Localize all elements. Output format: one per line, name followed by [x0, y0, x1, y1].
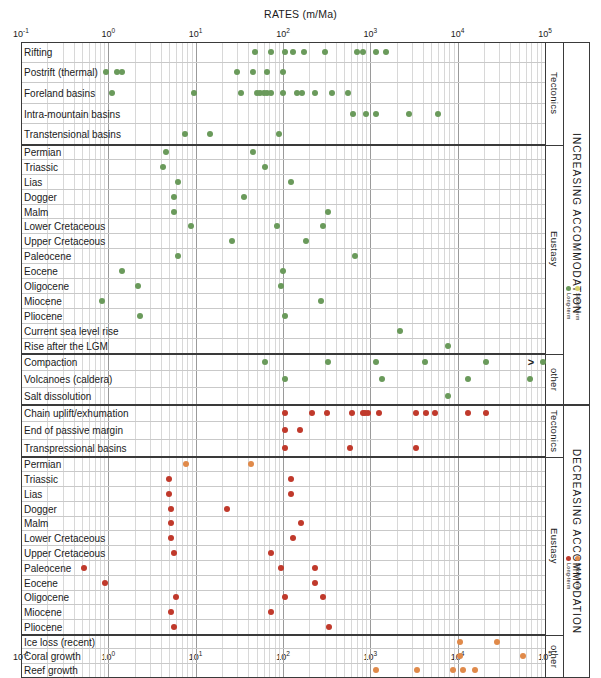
- data-point: [171, 194, 177, 200]
- data-point: [329, 90, 335, 96]
- accommodation-label-increasing: INCREASING ACCOMMODATION: [563, 42, 590, 405]
- row-label: Oligocene: [24, 592, 71, 603]
- data-point: [238, 90, 244, 96]
- row-label: Dogger: [24, 191, 59, 202]
- row-label: Ice loss (recent): [24, 636, 97, 647]
- data-point: [207, 131, 213, 137]
- data-point: [188, 223, 194, 229]
- data-point: [175, 253, 181, 259]
- section-divider: [21, 635, 545, 636]
- row-label: Upper Cretaceous: [24, 236, 107, 247]
- legend-long-term-dot: [566, 286, 571, 291]
- data-point: [483, 410, 489, 416]
- chart-title: RATES (m/Ma): [0, 8, 601, 20]
- data-point: [320, 594, 326, 600]
- open-right-marker: >: [528, 356, 534, 368]
- row-label: Paleocene: [24, 251, 73, 262]
- x-tick-1: 100: [102, 27, 116, 39]
- data-point: [457, 653, 463, 659]
- data-point: [324, 410, 330, 416]
- data-point: [527, 376, 533, 382]
- data-point: [280, 69, 286, 75]
- row-label: Current sea level rise: [24, 325, 120, 336]
- data-point: [166, 476, 172, 482]
- data-point: [102, 580, 108, 586]
- data-point: [171, 624, 177, 630]
- data-point: [183, 461, 189, 467]
- data-point: [278, 565, 284, 571]
- row-label: Postrift (thermal): [24, 67, 100, 78]
- data-point: [119, 268, 125, 274]
- row-label: Intra-mountain basins: [24, 108, 122, 119]
- data-point: [248, 461, 254, 467]
- data-point: [435, 111, 441, 117]
- data-point: [282, 49, 288, 55]
- data-point: [379, 376, 385, 382]
- data-point: [268, 550, 274, 556]
- data-point: [373, 111, 379, 117]
- data-point: [241, 194, 247, 200]
- data-point: [397, 328, 403, 334]
- data-point: [262, 359, 268, 365]
- data-point: [383, 49, 389, 55]
- row-label: Permian: [24, 146, 63, 157]
- legend-short-term-label: Short-term: [575, 563, 581, 590]
- x-tick-5: 104: [451, 27, 465, 39]
- section-divider: [21, 354, 545, 355]
- row-label: Permian: [24, 459, 63, 470]
- data-point: [445, 343, 451, 349]
- data-point: [312, 90, 318, 96]
- section-divider: [21, 457, 545, 458]
- data-point: [360, 49, 366, 55]
- data-point: [168, 520, 174, 526]
- row-label: Salt dissolution: [24, 390, 93, 401]
- row-label: Malm: [24, 518, 50, 529]
- data-point: [135, 283, 141, 289]
- data-point: [163, 149, 169, 155]
- row-label: Paleocene: [24, 562, 73, 573]
- group-label-tectonics-top: Tectonics: [545, 42, 563, 145]
- data-point: [99, 298, 105, 304]
- row-label: Miocene: [24, 607, 64, 618]
- row-label: Lower Cretaceous: [24, 533, 107, 544]
- data-point: [182, 131, 188, 137]
- data-point: [450, 667, 456, 673]
- legend-short-term: Short-term: [573, 556, 582, 590]
- legend-short-term-dot: [575, 286, 580, 291]
- data-point: [81, 565, 87, 571]
- data-point: [168, 609, 174, 615]
- row-label: Lias: [24, 176, 44, 187]
- data-point: [312, 565, 318, 571]
- row-label: Coral growth: [24, 651, 83, 662]
- data-point: [373, 667, 379, 673]
- data-point: [365, 410, 371, 416]
- data-point: [234, 69, 240, 75]
- data-point: [166, 491, 172, 497]
- data-point: [262, 164, 268, 170]
- data-point: [297, 427, 303, 433]
- data-point: [268, 609, 274, 615]
- data-point: [282, 376, 288, 382]
- data-point: [250, 149, 256, 155]
- data-point: [349, 410, 355, 416]
- section-divider: [21, 405, 545, 406]
- data-point: [423, 410, 429, 416]
- data-point: [274, 223, 280, 229]
- data-point: [445, 393, 451, 399]
- data-point: [290, 535, 296, 541]
- row-label: Triassic: [24, 474, 60, 485]
- data-point: [432, 410, 438, 416]
- accommodation-label-decreasing: DECREASING ACCOMMODATION: [563, 405, 590, 678]
- data-point: [173, 594, 179, 600]
- row-label: Rise after the LGM: [24, 340, 110, 351]
- chart-root: RATES (m/Ma) 10-1100101102103104105 10-1…: [0, 0, 601, 678]
- row-label: Transtensional basins: [24, 129, 123, 140]
- data-point: [345, 90, 351, 96]
- data-point: [229, 238, 235, 244]
- group-label-other-top: other: [545, 354, 563, 405]
- data-point: [168, 535, 174, 541]
- data-point: [103, 69, 109, 75]
- row-label: Pliocene: [24, 622, 64, 633]
- legend-short-term: Short-term: [573, 286, 582, 320]
- row-label: Reef growth: [24, 665, 80, 676]
